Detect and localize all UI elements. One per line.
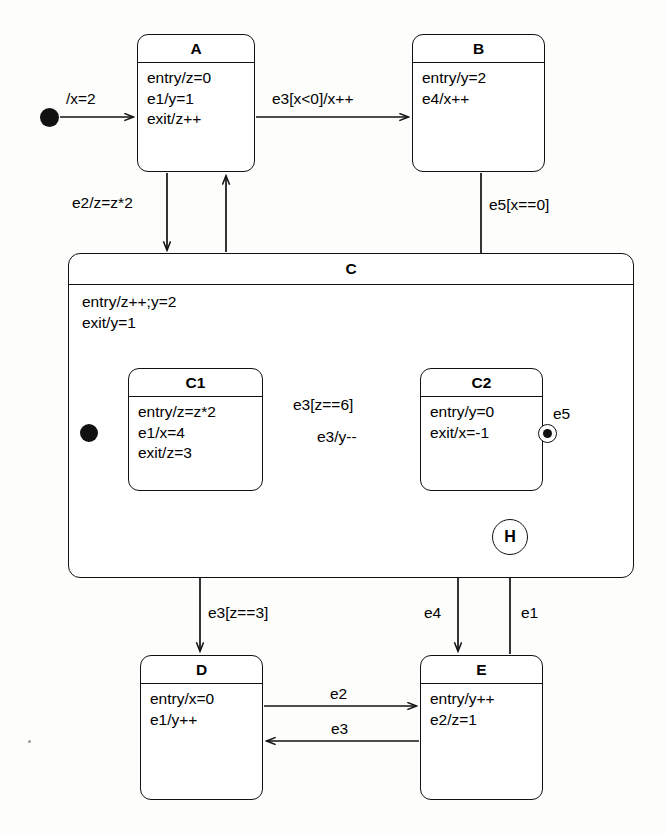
transition-label-init-top: /x=2 bbox=[66, 90, 96, 108]
state-c1[interactable]: C1 entry/z=z*2 e1/x=4 exit/z=3 bbox=[128, 368, 263, 491]
state-a-title: A bbox=[138, 35, 254, 63]
state-c2-title: C2 bbox=[421, 369, 542, 397]
transition-label-e-to-d: e3 bbox=[331, 720, 348, 738]
transition-label-e-to-h: e1 bbox=[521, 604, 538, 622]
transition-label-c2-to-c1: e3/y-- bbox=[317, 428, 357, 446]
state-c1-line-1: entry/z=z*2 bbox=[138, 402, 262, 423]
state-e[interactable]: E entry/y++ e2/z=1 bbox=[420, 655, 543, 800]
state-c2-line-1: entry/y=0 bbox=[430, 402, 542, 423]
transition-label-c2-to-e: e4 bbox=[424, 604, 441, 622]
transition-label-a-to-b: e3[x<0]/x++ bbox=[272, 90, 353, 108]
state-d[interactable]: D entry/x=0 e1/y++ bbox=[140, 655, 263, 800]
state-c2[interactable]: C2 entry/y=0 exit/x=-1 bbox=[420, 368, 543, 491]
state-diagram-canvas: /x=2 A entry/z=0 e1/y=1 exit/z++ B entry… bbox=[0, 0, 666, 836]
state-b-body: entry/y=2 e4/x++ bbox=[413, 63, 544, 109]
state-d-line-1: entry/x=0 bbox=[150, 689, 262, 710]
transition-label-d-to-e: e2 bbox=[330, 685, 347, 703]
state-a-line-3: exit/z++ bbox=[147, 109, 254, 130]
state-b-line-1: entry/y=2 bbox=[422, 68, 544, 89]
state-c1-line-2: e1/x=4 bbox=[138, 423, 262, 444]
transition-label-c1-to-c2: e3[z==6] bbox=[293, 396, 353, 414]
state-c2-line-2: exit/x=-1 bbox=[430, 423, 542, 444]
state-c1-body: entry/z=z*2 e1/x=4 exit/z=3 bbox=[129, 397, 262, 464]
state-e-title: E bbox=[421, 656, 542, 684]
state-a-line-2: e1/y=1 bbox=[147, 89, 254, 110]
final-state-c-core bbox=[543, 429, 552, 438]
state-c1-line-3: exit/z=3 bbox=[138, 443, 262, 464]
state-e-body: entry/y++ e2/z=1 bbox=[421, 684, 542, 730]
transition-label-b-to-c2: e5[x==0] bbox=[489, 196, 549, 214]
scan-speck bbox=[28, 740, 31, 743]
transition-label-c2-to-final: e5 bbox=[553, 405, 570, 423]
state-c1-title: C1 bbox=[129, 369, 262, 397]
state-c-line-2: exit/y=1 bbox=[82, 312, 633, 333]
state-c-title: C bbox=[69, 254, 633, 285]
state-a-line-1: entry/z=0 bbox=[147, 68, 254, 89]
state-c2-body: entry/y=0 exit/x=-1 bbox=[421, 397, 542, 443]
state-d-body: entry/x=0 e1/y++ bbox=[141, 684, 262, 730]
initial-state-top bbox=[40, 108, 59, 127]
transition-label-a-to-c: e2/z=z*2 bbox=[72, 194, 133, 212]
state-c-body: entry/z++;y=2 exit/y=1 bbox=[69, 285, 633, 333]
history-state-c: H bbox=[492, 519, 528, 555]
state-c-line-1: entry/z++;y=2 bbox=[82, 291, 633, 312]
state-b-line-2: e4/x++ bbox=[422, 89, 544, 110]
state-a[interactable]: A entry/z=0 e1/y=1 exit/z++ bbox=[137, 34, 255, 172]
state-b[interactable]: B entry/y=2 e4/x++ bbox=[412, 34, 545, 172]
state-a-body: entry/z=0 e1/y=1 exit/z++ bbox=[138, 63, 254, 130]
state-d-line-2: e1/y++ bbox=[150, 710, 262, 731]
initial-state-c bbox=[80, 424, 98, 442]
state-e-line-1: entry/y++ bbox=[430, 689, 542, 710]
state-e-line-2: e2/z=1 bbox=[430, 710, 542, 731]
state-b-title: B bbox=[413, 35, 544, 63]
state-d-title: D bbox=[141, 656, 262, 684]
transition-label-c1-to-d: e3[z==3] bbox=[208, 604, 268, 622]
